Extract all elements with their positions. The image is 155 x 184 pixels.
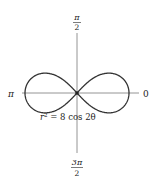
label-bottom-numerator: 3π <box>72 158 83 167</box>
label-top-denominator: 2 <box>75 23 80 32</box>
label-angle-pi: π <box>7 89 15 99</box>
equation-rhs: = 8 cos 2θ <box>48 112 96 122</box>
polar-lemniscate-figure: 0 π π 2 3π 2 r2 = 8 cos 2θ <box>0 0 155 184</box>
label-top-numerator: π <box>73 13 80 22</box>
label-angle-0: 0 <box>143 89 149 99</box>
pole-point <box>75 91 79 95</box>
label-bottom-denominator: 2 <box>75 169 80 178</box>
label-angle-3pi-over-2: 3π 2 <box>71 158 83 178</box>
label-angle-pi-over-2: π 2 <box>73 13 81 32</box>
equation-label: r2 = 8 cos 2θ <box>40 112 96 123</box>
